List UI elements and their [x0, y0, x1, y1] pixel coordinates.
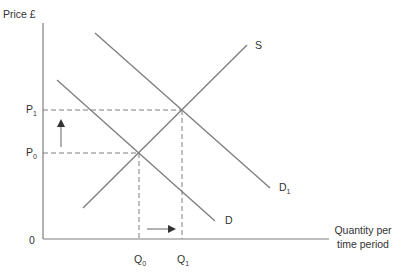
- p0-label: P0: [26, 146, 37, 160]
- demand-label: D: [225, 214, 233, 226]
- x-axis-label-line1: Quantity per: [334, 224, 392, 236]
- supply-curve: [83, 45, 247, 208]
- y-axis-label: Price £: [3, 8, 36, 20]
- supply-label: S: [255, 39, 262, 51]
- x-axis-label-line2: time period: [337, 238, 389, 250]
- supply-demand-diagram: Price £ 0 Quantity per time period P1 P0…: [0, 0, 402, 274]
- origin-label: 0: [29, 234, 35, 246]
- demand-shifted-label: D1: [279, 181, 291, 195]
- p1-label: P1: [26, 103, 37, 117]
- demand-shifted-curve: [95, 33, 270, 188]
- q1-label: Q1: [177, 253, 189, 267]
- q0-label: Q0: [134, 253, 146, 267]
